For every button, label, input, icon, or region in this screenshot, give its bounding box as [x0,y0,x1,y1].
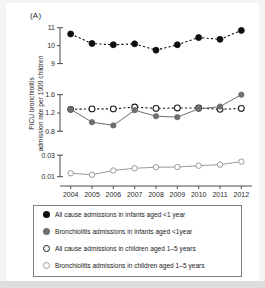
svg-text:9: 9 [51,60,55,67]
legend-card: All cause admissions in infants aged <1 … [6,201,259,281]
legend: All cause admissions in infants aged <1 … [33,205,242,277]
svg-text:2005: 2005 [84,191,100,198]
svg-text:2011: 2011 [212,191,227,198]
legend-label: All cause admissions in infants aged <1 … [55,211,185,218]
legend-label: Bronchiolitis admissions in children age… [55,262,205,269]
legend-item-all-cause-infants[interactable]: All cause admissions in infants aged <1 … [34,206,241,223]
figure-container: (A) PICU bronchiolitis admission rate pe… [0,0,265,288]
svg-text:0.03: 0.03 [41,152,55,159]
svg-text:2004: 2004 [63,191,79,198]
chart-panel: (A) PICU bronchiolitis admission rate pe… [6,3,259,201]
legend-label: Bronchiolitis admissions in infants aged… [55,228,192,235]
legend-item-bronchiolitis-children[interactable]: Bronchiolitis admissions in children age… [34,257,241,274]
filled-dark-circle-icon [40,211,52,218]
svg-text:10: 10 [47,42,55,49]
svg-text:0.8: 0.8 [45,128,55,135]
svg-text:2007: 2007 [127,191,143,198]
svg-text:2009: 2009 [170,191,186,198]
filled-gray-circle-icon [40,228,52,235]
legend-item-all-cause-children[interactable]: All cause admissions in children aged 1–… [34,240,241,257]
svg-text:2010: 2010 [191,191,207,198]
open-dark-circle-icon [40,245,52,252]
svg-text:0.01: 0.01 [41,173,55,180]
svg-text:1.2: 1.2 [45,109,55,116]
open-gray-circle-icon [40,262,52,269]
svg-text:1.6: 1.6 [45,91,55,98]
svg-text:2006: 2006 [106,191,122,198]
svg-text:11: 11 [48,24,55,31]
svg-text:2012: 2012 [234,191,250,198]
legend-item-bronchiolitis-infants[interactable]: Bronchiolitis admissions in infants aged… [34,223,241,240]
svg-text:2008: 2008 [148,191,164,198]
legend-label: All cause admissions in children aged 1–… [55,245,196,252]
bottom-strip [0,281,265,288]
plot-area: 910110.81.21.60.010.03200420052006200720… [6,3,259,201]
